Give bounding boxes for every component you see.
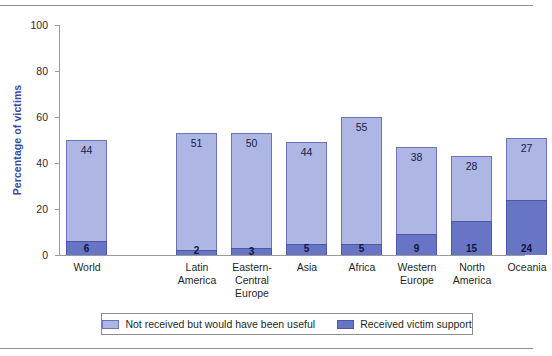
x-category-label-north-america: North America [441,261,503,287]
bar-segment-not-received[interactable]: 44 [66,140,107,241]
bar-segment-received[interactable]: 6 [66,241,107,255]
x-category-line: Western [386,261,448,274]
x-category-label-world: World [56,261,118,274]
x-category-label-asia: Asia [276,261,338,274]
bar-value-top: 44 [301,143,313,158]
bar-value-bottom: 15 [452,243,491,254]
bar-oceania[interactable]: 27 24 [506,138,547,255]
bar-segment-received[interactable]: 5 [286,244,327,256]
y-tick-80: 80 [55,71,59,72]
bar-segment-received[interactable]: 5 [341,244,382,256]
bar-segment-received[interactable]: 24 [506,200,547,255]
x-category-line: America [441,274,503,287]
x-category-label-western-europe: Western Europe [386,261,448,287]
bar-value-top: 51 [191,134,203,149]
bar-world[interactable]: 44 6 [66,140,107,255]
x-category-label-oceania: Oceania [496,261,552,274]
legend-label: Not received but would have been useful [125,318,315,330]
y-tick-label-60: 60 [36,111,48,123]
x-category-line: World [56,261,118,274]
bar-value-bottom: 6 [67,243,106,254]
bar-segment-not-received[interactable]: 28 [451,156,492,220]
bar-value-bottom: 5 [342,243,381,254]
y-tick-40: 40 [55,163,59,164]
x-category-line: Asia [276,261,338,274]
bar-segment-received[interactable]: 15 [451,221,492,256]
x-category-label-africa: Africa [331,261,393,274]
y-tick-label-80: 80 [36,65,48,77]
y-tick-0: 0 [55,255,59,256]
x-category-label-latin-america: Latin America [166,261,228,287]
x-category-line: North [441,261,503,274]
bar-value-top: 55 [356,118,368,133]
bar-value-top: 27 [521,139,533,154]
bar-value-bottom: 3 [232,246,271,257]
legend-item-not-received[interactable]: Not received but would have been useful [102,318,315,330]
bar-asia[interactable]: 44 5 [286,142,327,255]
bar-segment-not-received[interactable]: 55 [341,117,382,244]
legend-item-received[interactable]: Received victim support [337,318,471,330]
y-tick-label-20: 20 [36,203,48,215]
y-tick-100: 100 [55,25,59,26]
plot-area: 100 80 60 40 20 0 44 6 World [59,25,525,255]
bar-segment-received[interactable]: 9 [396,234,437,255]
x-category-line: Africa [331,261,393,274]
bar-value-bottom: 9 [397,243,436,254]
x-axis-line [59,255,525,256]
y-tick-20: 20 [55,209,59,210]
legend-swatch-dark-icon [337,320,354,329]
bar-segment-not-received[interactable]: 27 [506,138,547,200]
x-category-line: Europe [221,287,283,300]
legend-label: Received victim support [360,318,471,330]
bar-value-top: 44 [81,141,93,156]
y-tick-label-40: 40 [36,157,48,169]
bar-segment-received[interactable]: 3 [231,248,272,255]
y-tick-60: 60 [55,117,59,118]
x-category-label-eastern-central-europe: Eastern- Central Europe [221,261,283,300]
bar-africa[interactable]: 55 5 [341,117,382,255]
x-category-line: America [166,274,228,287]
x-category-line: Europe [386,274,448,287]
bar-north-america[interactable]: 28 15 [451,156,492,255]
bar-segment-not-received[interactable]: 51 [176,133,217,250]
bar-value-bottom: 24 [507,243,546,254]
bar-value-top: 28 [466,157,478,172]
x-category-line: Central [221,274,283,287]
bottom-rule [0,348,533,349]
x-category-line: Latin [166,261,228,274]
y-axis-line [59,25,60,256]
top-rule [0,5,533,6]
bar-value-bottom: 2 [177,245,216,256]
bar-western-europe[interactable]: 38 9 [396,147,437,255]
bar-segment-not-received[interactable]: 50 [231,133,272,248]
y-axis-title-text: Percentage of victims [11,85,23,196]
bar-latin-america[interactable]: 51 2 [176,133,217,255]
bar-segment-received[interactable]: 2 [176,250,217,255]
bar-eastern-central-europe[interactable]: 50 3 [231,133,272,255]
bar-value-top: 50 [246,134,258,149]
x-category-line: Oceania [496,261,552,274]
chart-legend: Not received but would have been useful … [101,313,473,335]
legend-swatch-light-icon [102,320,119,329]
y-axis-title: Percentage of victims [8,25,26,255]
bar-segment-not-received[interactable]: 38 [396,147,437,234]
y-tick-label-100: 100 [30,19,48,31]
x-category-line: Eastern- [221,261,283,274]
y-tick-label-0: 0 [42,249,48,261]
bar-value-top: 38 [411,148,423,163]
bar-segment-not-received[interactable]: 44 [286,142,327,243]
bar-value-bottom: 5 [287,243,326,254]
